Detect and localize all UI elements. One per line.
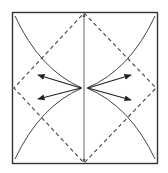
- paper-square: [13, 13, 158, 164]
- fold-diagram: [0, 0, 168, 173]
